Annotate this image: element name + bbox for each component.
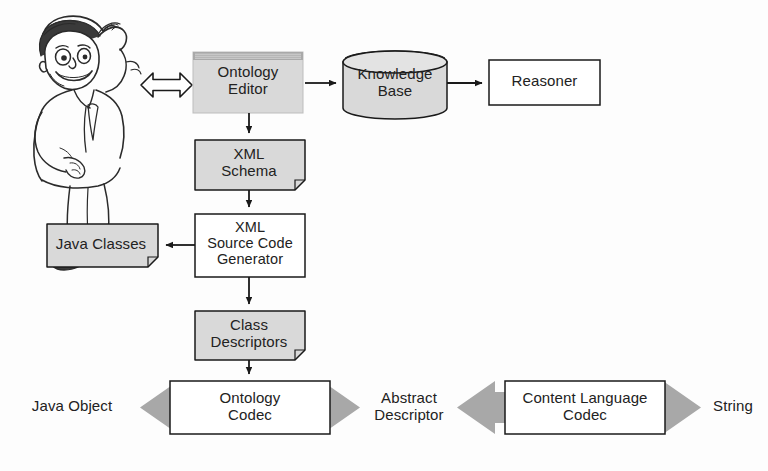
content-language-codec-shape[interactable] <box>505 381 665 434</box>
class-descriptors-shape[interactable] <box>195 311 305 360</box>
diagram-vector-layer <box>0 0 768 471</box>
reasoner-shape[interactable] <box>489 60 600 105</box>
actor-to-editor-connector <box>141 73 192 97</box>
diagram-canvas: Ontology Editor Knowledge Base Reasoner … <box>0 0 768 471</box>
java-classes-shape[interactable] <box>47 224 158 267</box>
xml-schema-shape[interactable] <box>195 140 305 190</box>
ontology-codec-shape[interactable] <box>170 381 330 434</box>
xml-source-code-generator-shape[interactable] <box>195 214 305 277</box>
ontology-editor-shape[interactable] <box>193 52 303 113</box>
knowledge-base-shape[interactable] <box>343 51 447 119</box>
